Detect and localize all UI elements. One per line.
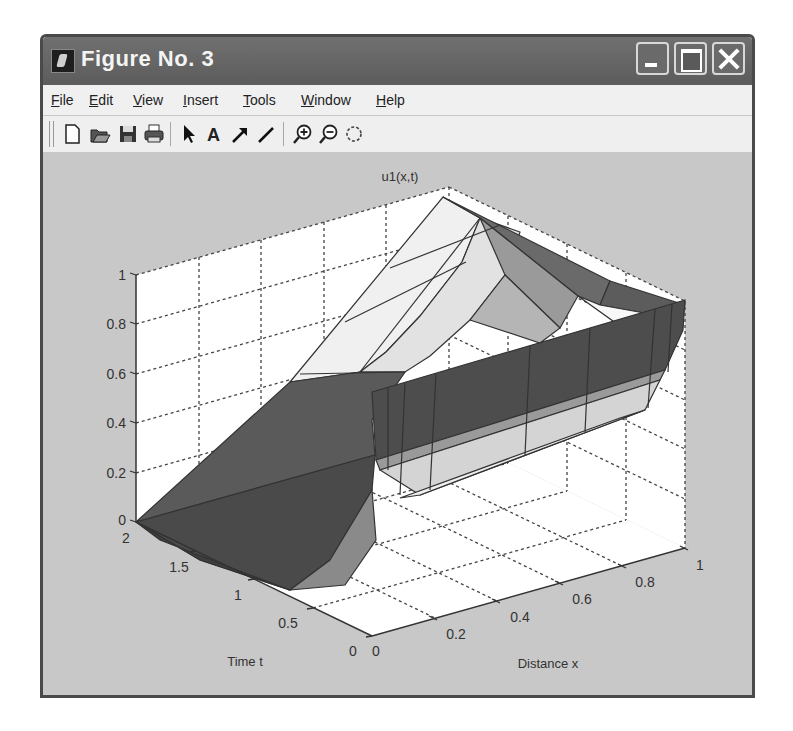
svg-text:0: 0: [118, 512, 126, 528]
x-axis-label: Distance x: [518, 656, 579, 671]
svg-text:0.5: 0.5: [278, 615, 298, 631]
svg-text:0.6: 0.6: [107, 366, 127, 382]
surface-plot[interactable]: u1(x,t) 1 0.8 0.6 0.4 0.2 0 2 1.5 1 0.5 …: [0, 0, 793, 731]
svg-text:0.8: 0.8: [107, 316, 127, 332]
svg-text:0.6: 0.6: [572, 591, 592, 607]
svg-text:0.8: 0.8: [635, 574, 655, 590]
svg-text:0: 0: [349, 643, 357, 659]
svg-text:1.5: 1.5: [169, 559, 189, 575]
svg-text:0.4: 0.4: [107, 415, 127, 431]
chart-title: u1(x,t): [382, 169, 419, 184]
svg-text:1: 1: [234, 587, 242, 603]
svg-text:1: 1: [696, 557, 704, 573]
svg-text:0.2: 0.2: [446, 626, 466, 642]
svg-text:0: 0: [372, 643, 380, 659]
svg-text:0.4: 0.4: [510, 609, 530, 625]
t-axis-label: Time t: [227, 654, 263, 669]
z-tick-labels: 1 0.8 0.6 0.4 0.2 0: [107, 267, 127, 528]
svg-text:2: 2: [122, 530, 130, 546]
svg-text:0.2: 0.2: [107, 465, 127, 481]
svg-text:1: 1: [118, 267, 126, 283]
